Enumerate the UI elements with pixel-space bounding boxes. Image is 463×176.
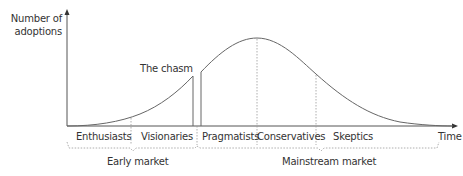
segment-conservatives: Conservatives [257, 131, 325, 143]
segment-visionaries: Visionaries [141, 131, 193, 143]
y-axis-arrow-icon [65, 9, 70, 15]
curve-mainstream-market [201, 38, 453, 126]
curve-early-market [67, 76, 193, 126]
y-axis-label: Number of adoptions [0, 12, 62, 38]
segment-skeptics: Skeptics [333, 131, 373, 143]
chasm-label: The chasm [140, 63, 193, 75]
y-axis-label-line2: adoptions [0, 25, 62, 38]
market-early: Early market [107, 156, 169, 168]
early-market-bracket [67, 142, 197, 151]
market-mainstream: Mainstream market [282, 156, 376, 168]
adoption-curve-diagram [0, 0, 463, 176]
segment-enthusiasts: Enthusiasts [76, 131, 132, 143]
y-axis-label-line1: Number of [0, 12, 62, 25]
segment-pragmatists: Pragmatists [202, 131, 259, 143]
mainstream-market-bracket [197, 142, 439, 151]
x-axis-label: Time [438, 131, 462, 143]
